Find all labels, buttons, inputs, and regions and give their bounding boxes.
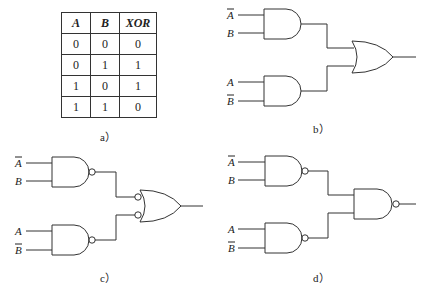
svg-text:B: B [15,244,22,256]
caption-b: b） [313,123,330,135]
input-not-b: B [227,95,234,107]
nand-gate-icon [52,225,89,255]
caption-c: c） [100,272,116,284]
svg-text:A: A [227,156,235,168]
and-gate-icon [264,76,301,106]
svg-text:A: A [14,225,22,237]
caption-d: d） [313,272,330,284]
nand-gate-icon [265,223,302,253]
svg-text:B: B [228,174,235,186]
input-not-a: A [226,9,234,21]
circuit-b: A B A B b） [226,9,416,135]
input-b: B [227,27,234,39]
circuit-d: A B A B d） [227,156,416,284]
and-gate-icon [264,9,301,39]
svg-text:B: B [15,175,22,187]
svg-text:B: B [228,242,235,254]
nand-gate-icon [354,189,392,219]
nand-gate-icon [52,157,89,187]
or-gate-icon [352,41,393,73]
circuit-c: A B A B c） [14,157,203,284]
svg-text:A: A [14,157,22,169]
svg-text:A: A [227,223,235,235]
or-gate-icon [140,190,181,222]
input-a: A [226,76,234,88]
nand-gate-icon [265,156,302,186]
